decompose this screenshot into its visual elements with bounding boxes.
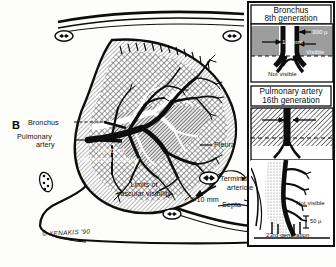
inset-artery-caliber: 300 µ: [301, 112, 317, 119]
vessel-cross-section-upper-left: [55, 31, 73, 41]
inset-bottom-title-line2: 16th generation: [251, 96, 331, 105]
vessel-cross-section-lower: [163, 209, 181, 219]
label-terminal-arteriole-line2: arteriole: [227, 184, 253, 192]
label-limits-bronchial-line2: bronchial visibility: [69, 156, 153, 164]
inset-acinus-generation: 23rd generation: [266, 231, 309, 238]
inset-acinus-terminal-caliber: 50 µ: [310, 218, 321, 224]
inset-top-lumen-caliber: 1.5 mm: [282, 38, 303, 45]
inset-bottom-title-line1: Pulmonary artery: [251, 87, 331, 96]
lymphatic-glyph: [37, 171, 55, 194]
label-acinus-size: 5-10 mm: [190, 196, 219, 204]
label-limits-vascular-line1: Limits of: [108, 181, 180, 189]
inset-top-visible-zone-label: Visible: [306, 48, 324, 55]
figure-lung-secondary-lobule: B Bronchus Pulmonary artery Limits of br…: [0, 0, 336, 267]
label-septa: Septa: [222, 201, 241, 209]
inset-artery-visible-label: Visible: [303, 127, 321, 134]
inset-top-not-visible-zone-label: Not visible: [268, 70, 297, 77]
label-limits-bronchial-line1: Limits of: [75, 147, 147, 155]
label-limits-vascular-line2: vascular visibility: [102, 190, 186, 198]
chest-wall-outline: [58, 12, 244, 33]
label-bronchus: Bronchus: [28, 119, 59, 127]
inset-artery-diagram: [251, 108, 333, 160]
label-pleura: Pleura: [214, 141, 235, 149]
inset-top-title-line2: 8th generation: [251, 14, 331, 23]
inset-acinus-not-visible-label: Not visible: [296, 199, 325, 206]
label-terminal-arteriole-line1: Terminal: [220, 175, 248, 183]
vessel-cross-section-upper-right: [223, 31, 241, 41]
panel-letter: B: [12, 119, 20, 131]
inset-top-wall-caliber: 300 µ: [312, 28, 328, 35]
label-pulmonary-artery-line2: artery: [36, 141, 55, 149]
